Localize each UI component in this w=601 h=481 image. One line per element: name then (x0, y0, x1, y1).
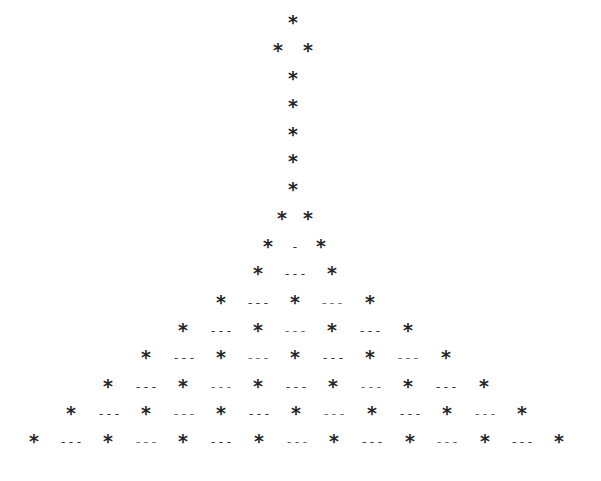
dash-glyph: --- (283, 267, 306, 280)
dash-glyph: --- (172, 351, 195, 364)
dash-glyph: --- (283, 324, 306, 337)
dash-glyph: --- (434, 380, 457, 393)
dash-glyph: --- (510, 435, 533, 448)
asterisk-glyph: * (287, 152, 298, 171)
dash-glyph: --- (246, 296, 269, 309)
asterisk-glyph: * (177, 377, 188, 396)
dash-glyph: --- (435, 435, 458, 448)
dash-glyph: --- (209, 324, 232, 337)
asterisk-glyph: * (327, 377, 338, 396)
dash-glyph: --- (321, 351, 344, 364)
dash-glyph: --- (59, 435, 82, 448)
asterisk-glyph: * (287, 13, 298, 32)
asterisk-glyph: * (326, 264, 337, 283)
dash-glyph: --- (396, 351, 419, 364)
asterisk-glyph: * (252, 264, 263, 283)
dash-glyph: --- (284, 380, 307, 393)
dash-glyph: --- (322, 407, 345, 420)
asterisk-glyph: * (65, 404, 76, 423)
asterisk-glyph: * (315, 237, 326, 256)
dash-glyph: --- (285, 435, 308, 448)
asterisk-glyph: * (102, 432, 113, 451)
asterisk-glyph: * (404, 432, 415, 451)
asterisk-glyph: * (302, 209, 313, 228)
asterisk-glyph: * (364, 293, 375, 312)
asterisk-glyph: * (289, 293, 300, 312)
dash-glyph: --- (209, 380, 232, 393)
asterisk-glyph: * (287, 97, 298, 116)
asterisk-glyph: * (287, 125, 298, 144)
asterisk-glyph: * (28, 432, 39, 451)
asterisk-glyph: * (287, 69, 298, 88)
asterisk-glyph: * (215, 348, 226, 367)
dash-glyph: --- (473, 407, 496, 420)
asterisk-glyph: * (287, 180, 298, 199)
asterisk-glyph: * (402, 377, 413, 396)
dash-glyph: --- (358, 324, 381, 337)
asterisk-glyph: * (262, 237, 273, 256)
asterisk-glyph: * (272, 41, 283, 60)
dash-glyph: --- (246, 351, 269, 364)
asterisk-glyph: * (553, 432, 564, 451)
asterisk-glyph: * (252, 321, 263, 340)
asterisk-glyph: * (478, 377, 489, 396)
dash-glyph: --- (247, 407, 270, 420)
asterisk-glyph: * (140, 348, 151, 367)
asterisk-glyph: * (366, 404, 377, 423)
dash-glyph: --- (360, 435, 383, 448)
dash-glyph: - (291, 240, 299, 253)
asterisk-glyph: * (253, 432, 264, 451)
dash-glyph: --- (209, 435, 232, 448)
asterisk-glyph: * (252, 377, 263, 396)
dash-glyph: --- (134, 380, 157, 393)
asterisk-glyph: * (516, 404, 527, 423)
dash-glyph: --- (398, 407, 421, 420)
asterisk-glyph: * (177, 432, 188, 451)
asterisk-glyph: * (326, 321, 337, 340)
asterisk-glyph: * (290, 404, 301, 423)
asterisk-glyph: * (479, 432, 490, 451)
asterisk-glyph: * (102, 377, 113, 396)
asterisk-glyph: * (215, 293, 226, 312)
asterisk-glyph: * (402, 321, 413, 340)
asterisk-glyph: * (289, 348, 300, 367)
asterisk-glyph: * (177, 321, 188, 340)
asterisk-glyph: * (441, 404, 452, 423)
asterisk-glyph: * (140, 404, 151, 423)
dash-glyph: --- (134, 435, 157, 448)
dash-glyph: --- (320, 296, 343, 309)
dash-glyph: --- (172, 407, 195, 420)
dash-glyph: --- (97, 407, 120, 420)
asterisk-glyph: * (276, 209, 287, 228)
asterisk-glyph: * (440, 348, 451, 367)
asterisk-glyph: * (364, 348, 375, 367)
asterisk-glyph: * (302, 41, 313, 60)
asterisk-glyph: * (328, 432, 339, 451)
asterisk-glyph: * (215, 404, 226, 423)
dash-glyph: --- (359, 380, 382, 393)
